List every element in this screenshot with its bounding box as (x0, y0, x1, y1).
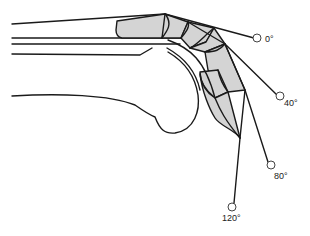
leader-80 (245, 90, 268, 162)
marker-0 (253, 34, 261, 42)
diagram-svg (0, 0, 310, 236)
angle-label-0: 0° (265, 35, 274, 44)
marker-40 (276, 92, 284, 100)
marker-80 (267, 161, 275, 169)
femur-condyle-outline (12, 52, 198, 133)
angle-label-40: 40° (284, 99, 298, 108)
leader-120 (234, 138, 240, 203)
marker-120 (228, 203, 236, 211)
angle-label-120: 120° (222, 214, 241, 223)
knee-flexion-diagram: 0° 40° 80° 120° (0, 0, 310, 236)
thigh-line-3 (12, 48, 152, 55)
patella-segment-0 (116, 14, 168, 38)
angle-label-80: 80° (274, 172, 288, 181)
